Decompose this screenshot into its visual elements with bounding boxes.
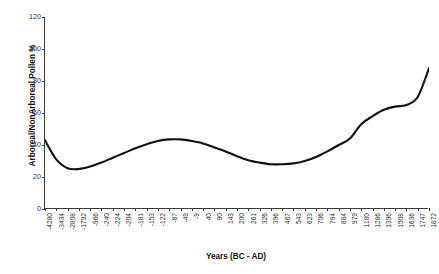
x-tick-mark [248,208,249,211]
y-tick-label: 60 [1,109,45,116]
x-tick-label-text: 794 [330,213,337,224]
x-tick-mark [192,208,193,211]
x-tick-mark [101,208,102,211]
x-tick-mark [56,208,57,211]
x-tick-mark [293,208,294,211]
x-tick-mark [361,208,362,211]
x-tick-label-text: 1636 [409,213,416,228]
x-tick-mark [260,208,261,211]
y-tick-mark [42,81,45,82]
x-tick-label-text: 543 [296,213,303,224]
x-tick-mark [147,208,148,211]
y-tick-label: 40 [1,141,45,148]
x-tick-mark [203,208,204,211]
x-tick-mark [79,208,80,211]
x-tick-label-text: 1872 [431,213,438,228]
x-tick-mark [327,208,328,211]
x-tick-label-text: 326 [262,213,269,224]
x-tick-label-text: -153 [149,213,156,226]
x-tick-mark [237,208,238,211]
x-tick-label-text: -224 [115,213,122,226]
x-tick-mark [282,208,283,211]
x-tick-mark [350,208,351,211]
x-tick-mark [418,208,419,211]
x-tick-label-text: 979 [352,213,359,224]
y-tick-label: 80 [1,77,45,84]
x-tick-label-text: 1396 [386,213,393,228]
x-tick-mark [68,208,69,211]
x-tick-label-text: -49 [183,213,190,223]
x-tick-label-text: 623 [307,213,314,224]
x-tick-label-text: 90 [217,213,224,220]
x-tick-mark [158,208,159,211]
x-tick-mark [339,208,340,211]
x-tick-label-text: -1792 [81,213,88,230]
x-tick-mark [384,208,385,211]
y-tick-mark [42,145,45,146]
x-tick-mark [271,208,272,211]
pollen-curve-svg [45,17,429,209]
x-tick-mark [316,208,317,211]
x-tick-label-text: -4280 [47,213,54,230]
x-tick-label-text: 1508 [398,213,405,228]
x-tick-label-text: 40 [206,213,213,220]
y-tick-mark [42,17,45,18]
pollen-line-chart: Arboreal/NonArboreal Pollen % 0204060801… [0,0,439,274]
y-tick-label: 0 [1,205,45,212]
x-tick-label-text: 706 [318,213,325,224]
y-tick-label: 100 [1,45,45,52]
x-tick-label-text: 467 [285,213,292,224]
x-tick-mark [181,208,182,211]
x-tick-mark [305,208,306,211]
x-tick-mark [45,208,46,211]
x-tick-label-text: -87 [172,213,179,223]
pollen-curve-path [45,68,429,169]
y-tick-mark [42,49,45,50]
x-tick-label-text: -2808 [70,213,77,230]
x-tick-label-text: 261 [251,213,258,224]
x-tick-mark [90,208,91,211]
y-tick-mark [42,113,45,114]
x-axis-title: Years (BC - AD) [44,252,428,261]
x-tick-mark [429,208,430,211]
x-tick-label-text: 396 [273,213,280,224]
x-tick-mark [169,208,170,211]
y-tick-label: 20 [1,173,45,180]
x-tick-label-text: 1747 [420,213,427,228]
x-tick-mark [406,208,407,211]
x-tick-label-text: 143 [228,213,235,224]
x-tick-mark [214,208,215,211]
x-tick-label-text: 1286 [375,213,382,228]
x-tick-label-text: -3434 [59,213,66,230]
x-tick-mark [113,208,114,211]
x-tick-mark [395,208,396,211]
x-tick-label-text: 884 [341,213,348,224]
x-tick-mark [135,208,136,211]
x-tick-label-text: -240 [104,213,111,226]
y-tick-label: 120 [1,13,45,20]
x-tick-label-text: 1180 [364,213,371,227]
x-tick-mark [124,208,125,211]
y-tick-mark [42,177,45,178]
x-tick-label-text: -9 [194,213,201,219]
x-tick-label-text: -181 [138,213,145,226]
plot-area: 020406080100120-4280-3434-2808-1792-966-… [44,17,428,209]
x-tick-label-text: -966 [93,213,100,226]
x-tick-label-text: -122 [160,213,167,226]
x-tick-label-text: -204 [126,213,133,226]
x-tick-label-text: 200 [239,213,246,224]
x-tick-mark [373,208,374,211]
x-tick-mark [226,208,227,211]
